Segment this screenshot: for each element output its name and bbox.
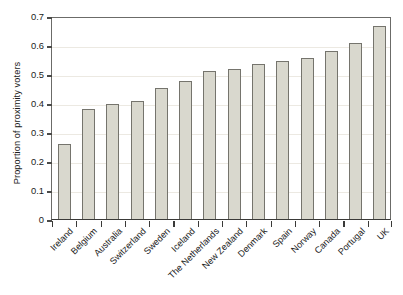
bar-chart-figure: Proportion of proximity voters 00.10.20.… bbox=[0, 0, 403, 295]
y-axis-tick-label: 0.7 bbox=[18, 12, 44, 21]
bar bbox=[325, 51, 338, 219]
y-axis-tick-label: 0.3 bbox=[18, 128, 44, 137]
x-axis-tick bbox=[101, 221, 102, 227]
y-axis-tick bbox=[47, 133, 52, 134]
x-axis-tick bbox=[391, 221, 392, 227]
x-axis-tick bbox=[173, 221, 174, 227]
bar bbox=[301, 58, 314, 219]
x-axis-tick bbox=[198, 221, 199, 227]
x-axis-tick bbox=[222, 221, 223, 227]
plot-area bbox=[51, 17, 391, 220]
y-axis-tick-label: 0.5 bbox=[18, 70, 44, 79]
x-axis-tick bbox=[149, 221, 150, 227]
gridline bbox=[52, 76, 390, 77]
bar bbox=[228, 69, 241, 219]
bar bbox=[179, 81, 192, 219]
x-axis-tick bbox=[295, 221, 296, 227]
y-axis-tick bbox=[47, 75, 52, 76]
x-axis-tick bbox=[343, 221, 344, 227]
bar bbox=[373, 26, 386, 219]
y-axis-tick bbox=[47, 162, 52, 163]
gridline bbox=[52, 105, 390, 106]
x-axis-tick bbox=[319, 221, 320, 227]
y-axis-tick-label: 0.2 bbox=[18, 157, 44, 166]
x-axis-tick bbox=[76, 221, 77, 227]
bar bbox=[58, 144, 71, 219]
y-axis-tick bbox=[47, 191, 52, 192]
gridline bbox=[52, 192, 390, 193]
y-axis-tick-label: 0.4 bbox=[18, 99, 44, 108]
x-axis-tick bbox=[368, 221, 369, 227]
y-axis-tick-label: 0.6 bbox=[18, 41, 44, 50]
gridline bbox=[52, 163, 390, 164]
x-axis-tick bbox=[271, 221, 272, 227]
x-axis-tick bbox=[246, 221, 247, 227]
bar bbox=[82, 109, 95, 219]
bar bbox=[131, 101, 144, 219]
y-axis-tick bbox=[47, 46, 52, 47]
gridline bbox=[52, 134, 390, 135]
x-axis-tick bbox=[52, 221, 53, 227]
x-axis-tick bbox=[125, 221, 126, 227]
y-axis-tick-label: 0 bbox=[18, 215, 44, 224]
y-axis-tick bbox=[47, 104, 52, 105]
y-axis-tick bbox=[47, 17, 52, 18]
bar bbox=[276, 61, 289, 219]
bar bbox=[106, 104, 119, 219]
bar bbox=[349, 43, 362, 219]
bar bbox=[155, 88, 168, 219]
y-axis-tick-label: 0.1 bbox=[18, 186, 44, 195]
gridline bbox=[52, 47, 390, 48]
bar bbox=[203, 71, 216, 219]
bar bbox=[252, 64, 265, 219]
